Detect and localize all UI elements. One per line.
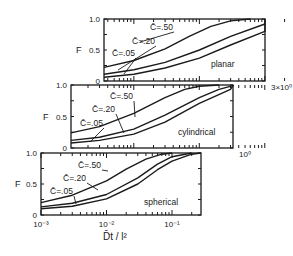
y-tick-label: 1.0 — [56, 81, 68, 90]
panel-annotation-cylindrical: cylindrical — [178, 127, 215, 137]
y-tick-label: 0.5 — [26, 180, 38, 189]
y-tick-label: 1.0 — [89, 15, 101, 24]
x-tick-label: 10⁻¹ — [164, 220, 180, 229]
curve-label: C̄=.50 — [150, 22, 173, 32]
curve-label: C̄=.20 — [63, 173, 86, 183]
curve-label: C̄=.20 — [132, 36, 155, 46]
y-axis-label: F — [76, 45, 82, 55]
curve-label: C̄=.05 — [80, 118, 103, 128]
curve-label: C̄=.05 — [50, 186, 73, 196]
panel-spherical: 00.51.0FC̄=.50C̄=.20C̄=.05spherical10⁻³1… — [15, 149, 201, 229]
y-tick-label: 0.5 — [56, 113, 68, 122]
curve-label: C̄=.05 — [112, 48, 135, 58]
panel-bg — [71, 85, 233, 148]
y-axis-label: F — [43, 112, 49, 122]
x-axis-label: D̄t / l² — [103, 230, 128, 242]
x-tick-label-right: 10⁰ — [239, 150, 251, 159]
curve-label: C̄=.20 — [92, 104, 115, 114]
y-tick-label: 0.5 — [89, 46, 101, 55]
panel-cylindrical: 00.51.0FC̄=.50C̄=.20C̄=.05cylindrical10⁰ — [43, 81, 265, 159]
panel-planar: 00.51.0FC̄=.50C̄=.20C̄=.05planar3×10⁰ — [76, 15, 293, 92]
x-tick-label: 10⁻³ — [33, 220, 49, 229]
y-tick-label: 1.0 — [26, 149, 38, 158]
panel-annotation-spherical: spherical — [144, 197, 178, 207]
curve-label: C̄=.50 — [110, 91, 133, 101]
panels-group: 00.51.0FC̄=.50C̄=.20C̄=.05spherical10⁻³1… — [15, 15, 293, 229]
y-tick-label: 0 — [96, 77, 101, 86]
y-tick-label: 0 — [33, 211, 38, 220]
curve-label: C̄=.50 — [78, 160, 101, 170]
x-tick-label: 10⁻² — [99, 220, 115, 229]
x-tick-label-right: 3×10⁰ — [271, 83, 292, 92]
panel-annotation-planar: planar — [211, 59, 235, 69]
chart-figure: 00.51.0FC̄=.50C̄=.20C̄=.05spherical10⁻³1… — [0, 0, 293, 256]
y-tick-label: 0 — [63, 144, 68, 153]
y-axis-label: F — [15, 179, 21, 189]
